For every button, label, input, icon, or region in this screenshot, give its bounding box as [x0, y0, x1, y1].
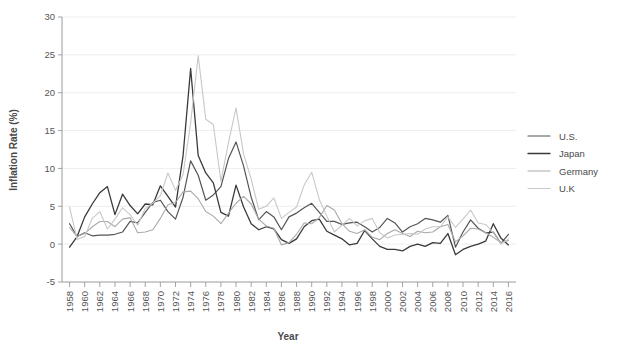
legend-label: U.K	[559, 183, 576, 194]
y-tick-label: 5	[50, 201, 55, 212]
x-axis-title: Year	[277, 331, 298, 342]
x-tick-label: 1958	[64, 291, 75, 312]
x-tick-label: 2010	[458, 291, 469, 312]
x-tick-label: 1964	[109, 291, 120, 312]
inflation-rate-line-chart: -5051015202530 1958196019621964196619681…	[0, 0, 629, 350]
x-tick-label: 1976	[200, 291, 211, 312]
x-tick-label: 1996	[352, 291, 363, 312]
x-tick-label: 1980	[231, 291, 242, 312]
y-axis-title: Inflation Rate (%)	[8, 109, 19, 191]
x-tick-label: 1962	[94, 291, 105, 312]
y-tick-label: 10	[44, 163, 55, 174]
x-tick-label: 1986	[276, 291, 287, 312]
x-tick-label: 2004	[412, 291, 423, 312]
x-tick-label: 1960	[79, 291, 90, 312]
x-tick-label: 1966	[125, 291, 136, 312]
y-tick-label: -5	[47, 276, 55, 287]
x-tick-label: 1970	[155, 291, 166, 312]
y-tick-label: 20	[44, 87, 55, 98]
x-tick-label: 1982	[246, 291, 257, 312]
y-tick-label: 15	[44, 125, 55, 136]
x-tick-label: 1978	[215, 291, 226, 312]
x-tick-label: 2008	[442, 291, 453, 312]
x-tick-label: 2012	[473, 291, 484, 312]
x-tick-label: 1990	[306, 291, 317, 312]
legend-label: Germany	[559, 166, 598, 177]
x-tick-label: 1984	[261, 291, 272, 312]
x-tick-label: 2006	[427, 291, 438, 312]
x-tick-label: 1988	[291, 291, 302, 312]
x-tick-label: 1998	[367, 291, 378, 312]
x-tick-label: 2000	[382, 291, 393, 312]
x-tick-label: 1972	[170, 291, 181, 312]
x-tick-label: 1968	[140, 291, 151, 312]
x-tick-label: 2002	[397, 291, 408, 312]
legend-label: Japan	[559, 148, 585, 159]
x-tick-label: 1974	[185, 291, 196, 312]
y-tick-label: 0	[50, 239, 55, 250]
legend-label: U.S.	[559, 131, 577, 142]
x-tick-label: 1992	[321, 291, 332, 312]
x-tick-label: 2016	[503, 291, 514, 312]
y-tick-label: 30	[44, 11, 55, 22]
x-tick-label: 1994	[336, 291, 347, 312]
y-tick-label: 25	[44, 49, 55, 60]
x-tick-label: 2014	[488, 291, 499, 312]
